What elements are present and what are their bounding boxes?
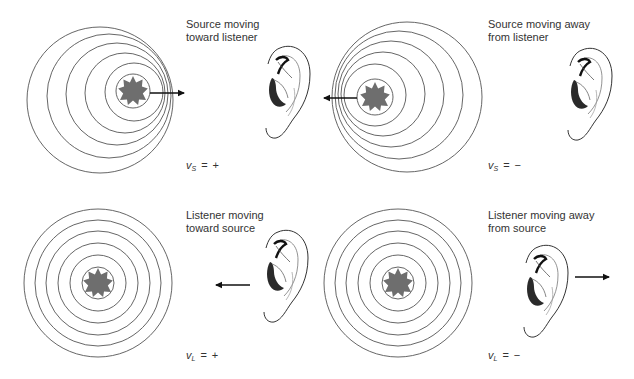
ear-icon (266, 46, 310, 138)
ear-icon (524, 245, 568, 337)
caption-listener-away: Listener moving away from source (488, 209, 594, 235)
diagram-canvas (0, 0, 634, 379)
ear-icon (568, 48, 612, 140)
panel-source-toward (27, 27, 310, 173)
velocity-label-source-toward: vS=+ (186, 159, 219, 172)
sound-source-icon (83, 268, 113, 297)
sound-source-icon (383, 268, 413, 297)
wavefronts (332, 22, 482, 172)
sound-source-icon (118, 76, 148, 105)
velocity-label-listener-away: vL=− (488, 349, 520, 362)
velocity-label-listener-toward: vL=+ (186, 349, 218, 362)
ear-icon (264, 230, 308, 322)
doppler-effect-figure: Source moving toward listener Source mov… (0, 0, 634, 379)
caption-source-away: Source moving away from listener (488, 18, 590, 44)
caption-source-toward: Source moving toward listener (186, 18, 259, 44)
velocity-label-source-away: vS=− (488, 159, 521, 172)
panel-listener-toward (24, 209, 308, 357)
caption-listener-toward: Listener moving toward source (186, 209, 264, 235)
wavefronts (27, 27, 173, 173)
panel-source-away (324, 22, 612, 172)
sound-source-icon (360, 82, 390, 111)
